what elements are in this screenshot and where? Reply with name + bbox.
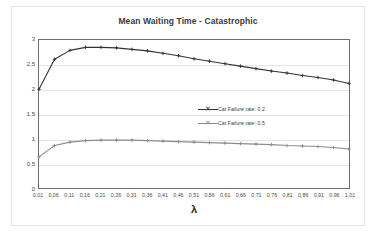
x-axis-tick-label: 0,61: [220, 192, 230, 198]
y-axis-tick-label: 2,5: [16, 61, 35, 67]
data-point-marker: [332, 146, 336, 150]
data-point-marker: [239, 64, 243, 68]
x-axis-tick-label: 0,86: [298, 192, 308, 198]
y-axis-tick-label: 0,5: [16, 161, 35, 167]
chart-legend: ✕Cat Failure rate: 0.2✕Cat Failure rate:…: [198, 102, 294, 130]
data-point-marker: [192, 140, 196, 144]
data-point-marker: [223, 62, 227, 66]
data-point-marker: [84, 139, 88, 143]
y-axis-tick-label: 1,5: [16, 111, 35, 117]
legend-line-marker-icon: ✕: [198, 105, 218, 114]
x-axis-tick-label: 0,71: [251, 192, 261, 198]
data-point-marker: [316, 76, 320, 80]
data-point-marker: [84, 46, 88, 50]
x-axis-tick-label: 0,01: [33, 192, 43, 198]
x-axis-tick-label: 0,31: [126, 192, 136, 198]
x-axis-tick-label: 0,36: [142, 192, 152, 198]
x-axis-tick-label: 0,11: [64, 192, 74, 198]
x-axis-title: λ: [38, 203, 350, 215]
series-markers-1: [37, 46, 351, 91]
data-point-marker: [301, 74, 305, 78]
data-point-marker: [208, 141, 212, 145]
x-axis-tick-label: 0,56: [204, 192, 214, 198]
data-point-marker: [161, 52, 165, 56]
data-point-marker: [68, 140, 72, 144]
data-point-marker: [254, 142, 258, 146]
x-axis-tick-label: 0,16: [80, 192, 90, 198]
data-point-marker: [146, 49, 150, 53]
data-point-marker: [99, 46, 103, 50]
x-axis-tick-label: 0,46: [173, 192, 183, 198]
chart-container: Mean Waiting Time - Catastrophic 00,511,…: [0, 0, 376, 237]
y-axis-tick-label: 3: [16, 36, 35, 42]
legend-item-label: Cat Failure rate: 0.2: [218, 106, 265, 112]
y-axis-tick-label: 1: [16, 136, 35, 142]
x-axis-tick-label: 0,81: [282, 192, 292, 198]
data-point-marker: [270, 143, 274, 147]
x-axis-tick-label: 0,51: [189, 192, 199, 198]
x-axis-tick-label: 0,66: [236, 192, 246, 198]
data-point-marker: [239, 142, 243, 146]
y-axis-tick-labels: 00,511,522,53: [16, 39, 35, 189]
legend-item-label: Cat Failure rate: 0.5: [218, 120, 265, 126]
x-axis-tick-label: 0,26: [111, 192, 121, 198]
legend-item-1[interactable]: ✕Cat Failure rate: 0.2: [198, 102, 294, 116]
data-point-marker: [208, 59, 212, 63]
x-axis-tick-label: 0,96: [329, 192, 339, 198]
plot-inner: [39, 40, 349, 188]
data-point-marker: [146, 139, 150, 143]
data-point-marker: [161, 139, 165, 143]
data-point-marker: [115, 46, 119, 50]
x-axis-tick-label: 0,91: [314, 192, 324, 198]
data-point-marker: [99, 138, 103, 142]
series-markers-2: [37, 138, 351, 158]
plot-area: [38, 39, 350, 189]
x-axis-tick-label: 0,21: [95, 192, 105, 198]
data-point-marker: [301, 144, 305, 148]
data-point-marker: [316, 145, 320, 149]
y-axis-tick-label: 2: [16, 86, 35, 92]
data-point-marker: [115, 138, 119, 142]
x-axis-tick-label: 0,76: [267, 192, 277, 198]
data-point-marker: [270, 69, 274, 73]
x-axis-tick-label: 0,41: [158, 192, 168, 198]
data-point-marker: [192, 57, 196, 61]
series-plot: [39, 40, 349, 188]
data-point-marker: [177, 54, 181, 58]
x-axis-tick-label: 0,06: [48, 192, 58, 198]
data-point-marker: [254, 67, 258, 71]
x-axis-tick-label: 1,01: [345, 192, 355, 198]
legend-line-marker-icon: ✕: [198, 119, 218, 128]
legend-item-2[interactable]: ✕Cat Failure rate: 0.5: [198, 116, 294, 130]
data-point-marker: [332, 78, 336, 82]
data-point-marker: [130, 48, 134, 52]
data-point-marker: [223, 141, 227, 145]
chart-title: Mean Waiting Time - Catastrophic: [11, 16, 365, 26]
data-point-marker: [285, 71, 289, 75]
data-point-marker: [177, 140, 181, 144]
series-line-1: [39, 47, 349, 89]
data-point-marker: [285, 144, 289, 148]
data-point-marker: [130, 138, 134, 142]
